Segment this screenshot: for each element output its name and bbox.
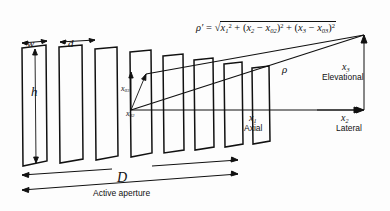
axis-name-axial: Axial (244, 124, 262, 133)
equation-rho-prime: ρ′ = √x12 + (x2 − x02)2 + (x3 − x03)2 (196, 22, 336, 34)
term1-superscript: 2 (228, 22, 231, 29)
height-dimension-arrow (33, 49, 39, 163)
transducer-element (194, 58, 214, 150)
axis-name-elevational: Elevational (322, 73, 364, 82)
term2-variable-subscript: 2 (251, 27, 254, 34)
equation-plus-1: + (234, 22, 240, 33)
source-point-arrows (129, 72, 146, 110)
label-element-height: h (31, 85, 38, 98)
label-source-elevational-subscript: 03 (125, 88, 130, 93)
label-source-lateral: x02 (126, 110, 135, 119)
term2-minus: − (257, 22, 263, 33)
aperture-dimension-arrow (22, 157, 238, 178)
transducer-element (95, 47, 118, 160)
equation-radicand: x12 + (x2 − x02)2 + (x3 − x03)2 (220, 21, 337, 33)
label-element-width: w (27, 38, 34, 49)
width-dimension-arrow (22, 40, 47, 46)
axis-name-lateral: Lateral (336, 124, 362, 133)
label-source-lateral-subscript: 02 (130, 113, 135, 118)
term3-superscript: 2 (332, 22, 335, 29)
term3-minus: − (309, 22, 315, 33)
pitch-dimension-arrow (60, 39, 95, 45)
term2-superscript: 2 (280, 22, 283, 29)
label-element-pitch: d (68, 38, 74, 49)
transducer-element (59, 45, 83, 163)
label-distance-rho: ρ (282, 64, 287, 75)
equation-equals: = (206, 22, 212, 33)
figure-canvas: w d h D Active aperture x03 x02 ρ ρ′ = √… (0, 0, 390, 211)
equation-plus-2: + (286, 22, 292, 33)
equation-lhs: ρ′ (196, 22, 203, 33)
label-aperture-size: D (117, 171, 127, 185)
label-source-elevational: x03 (121, 85, 130, 94)
label-active-aperture: Active aperture (93, 189, 150, 198)
transducer-element (22, 45, 47, 166)
term3-variable-subscript: 3 (303, 27, 306, 34)
